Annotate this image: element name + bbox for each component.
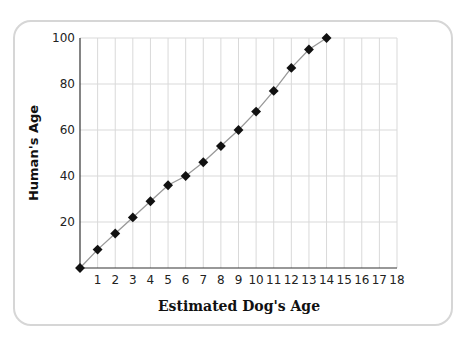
x-tick-label: 4 [147, 273, 155, 287]
x-tick-label: 17 [372, 273, 387, 287]
x-tick-label: 16 [354, 273, 369, 287]
x-tick-label: 15 [337, 273, 352, 287]
x-tick-label: 1 [94, 273, 102, 287]
x-tick-label: 14 [319, 273, 334, 287]
y-tick-label: 60 [60, 123, 75, 137]
x-tick-label: 9 [235, 273, 243, 287]
x-tick-label: 10 [248, 273, 263, 287]
x-tick-label: 11 [266, 273, 281, 287]
y-tick-labels: 20406080100 [52, 31, 75, 229]
x-tick-label: 6 [182, 273, 190, 287]
data-point-marker [322, 33, 332, 43]
x-tick-label: 7 [199, 273, 207, 287]
x-axis-label: Estimated Dog's Age [158, 298, 320, 314]
x-tick-label: 5 [164, 273, 172, 287]
y-tick-label: 40 [60, 169, 75, 183]
x-tick-label: 13 [301, 273, 316, 287]
y-tick-label: 20 [60, 215, 75, 229]
x-tick-label: 3 [129, 273, 137, 287]
line-chart: 123456789101112131415161718 20406080100 … [0, 0, 471, 341]
x-tick-labels: 123456789101112131415161718 [94, 273, 405, 287]
y-tick-label: 80 [60, 77, 75, 91]
x-tick-label: 8 [217, 273, 225, 287]
x-tick-label: 2 [111, 273, 119, 287]
x-tick-label: 12 [284, 273, 299, 287]
grid-lines [80, 38, 397, 268]
x-tick-label: 18 [389, 273, 404, 287]
y-axis-label: Human's Age [26, 105, 41, 201]
y-tick-label: 100 [52, 31, 75, 45]
